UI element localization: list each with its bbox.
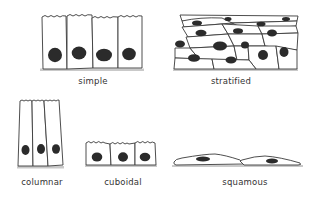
label-stratified: stratified (211, 76, 251, 86)
label-columnar: columnar (21, 177, 63, 187)
label-squamous: squamous (222, 177, 267, 187)
epithelium-diagram (0, 0, 319, 203)
columnar-epithelium-illustration (17, 100, 64, 169)
stratified-epithelium-illustration (173, 15, 298, 71)
squamous-epithelium-illustration (172, 154, 303, 167)
label-simple: simple (78, 76, 107, 86)
simple-epithelium-illustration (40, 15, 144, 72)
label-cuboidal: cuboidal (104, 177, 142, 187)
cuboidal-epithelium-illustration (85, 142, 157, 168)
